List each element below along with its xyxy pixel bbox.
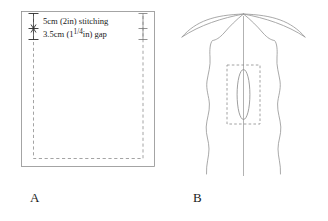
panel-a-caption: A (30, 190, 40, 205)
left-body-outline (206, 14, 243, 174)
panel-a: 5cm (2in) stitching 3.5cm (11/4in) gap A (22, 12, 155, 206)
stitching-label: 5cm (2in) stitching (43, 16, 109, 26)
right-shoulder-inner-arc (244, 14, 306, 37)
gap-label-suffix: in) gap (83, 29, 107, 39)
left-shoulder-inner-arc (182, 14, 244, 37)
dimension-bracket-left (29, 14, 39, 40)
panel-b-caption: B (193, 190, 202, 205)
gap-label-prefix: 3.5cm (1 (43, 29, 74, 39)
panel-b: B (182, 14, 305, 205)
figure-canvas: 5cm (2in) stitching 3.5cm (11/4in) gap A… (0, 0, 328, 221)
right-body-outline (244, 14, 281, 174)
gap-label: 3.5cm (11/4in) gap (43, 28, 107, 39)
figure-root: 5cm (2in) stitching 3.5cm (11/4in) gap A… (0, 0, 328, 221)
gap-label-fraction: 1/4 (74, 28, 84, 36)
left-shoulder-arc (182, 14, 244, 37)
dimension-bracket-right (139, 14, 148, 40)
right-shoulder-arc (244, 14, 306, 37)
